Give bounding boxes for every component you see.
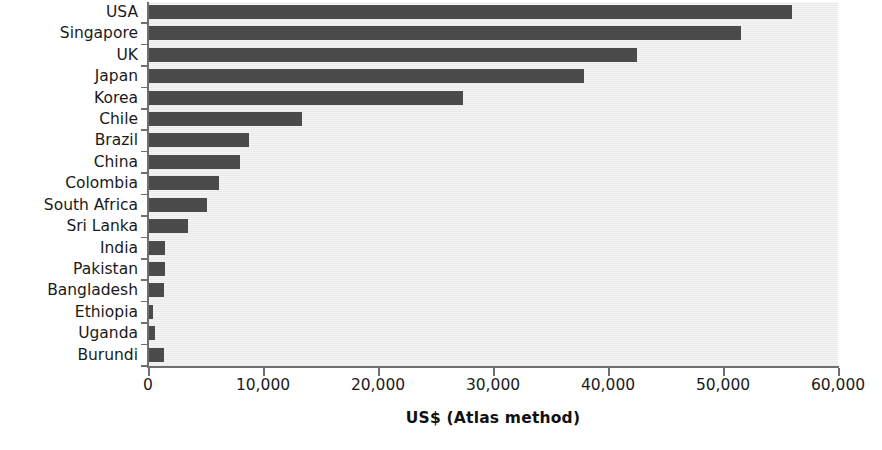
x-axis-labels: 010,00020,00030,00040,00050,00060,000 bbox=[148, 376, 838, 400]
x-axis-tick-label: 10,000 bbox=[236, 376, 290, 394]
bar bbox=[148, 176, 219, 190]
y-axis-ticks bbox=[141, 2, 148, 366]
x-axis-title: US$ (Atlas method) bbox=[148, 409, 838, 427]
bar bbox=[148, 155, 240, 169]
y-axis-tick bbox=[141, 301, 148, 303]
y-axis-tick-label: Bangladesh bbox=[0, 280, 138, 301]
y-axis-tick-label: Pakistan bbox=[0, 259, 138, 280]
y-axis-tick-label: Burundi bbox=[0, 345, 138, 366]
bar bbox=[148, 69, 584, 83]
y-axis-tick-label: Ethiopia bbox=[0, 302, 138, 323]
y-axis-tick-label: USA bbox=[0, 2, 138, 23]
x-axis-tick bbox=[148, 368, 150, 376]
bars-layer bbox=[148, 2, 838, 366]
bar-row bbox=[148, 345, 838, 366]
y-axis-tick-label: UK bbox=[0, 45, 138, 66]
x-axis-tick-label: 30,000 bbox=[466, 376, 520, 394]
y-axis-tick-label: Uganda bbox=[0, 323, 138, 344]
bar-row bbox=[148, 195, 838, 216]
bar-row bbox=[148, 323, 838, 344]
bar bbox=[148, 26, 741, 40]
bar bbox=[148, 283, 164, 297]
y-axis-tick bbox=[141, 322, 148, 324]
y-axis-tick bbox=[141, 108, 148, 110]
x-axis-tick-label: 50,000 bbox=[696, 376, 750, 394]
x-axis-tick-label: 40,000 bbox=[581, 376, 635, 394]
bar bbox=[148, 348, 164, 362]
y-axis-tick-label: Japan bbox=[0, 66, 138, 87]
x-axis-ticks bbox=[148, 368, 838, 376]
bar-row bbox=[148, 2, 838, 23]
y-axis-tick-label: Singapore bbox=[0, 23, 138, 44]
bar bbox=[148, 198, 207, 212]
bar bbox=[148, 48, 637, 62]
y-axis-tick bbox=[141, 344, 148, 346]
y-axis-tick-label: China bbox=[0, 152, 138, 173]
y-axis-tick bbox=[141, 237, 148, 239]
bar bbox=[148, 5, 792, 19]
bar bbox=[148, 326, 155, 340]
x-axis-tick bbox=[378, 368, 380, 376]
y-axis-tick bbox=[141, 279, 148, 281]
x-axis-tick-label: 60,000 bbox=[811, 376, 865, 394]
bar bbox=[148, 219, 188, 233]
x-axis-tick-label: 20,000 bbox=[351, 376, 405, 394]
bar bbox=[148, 133, 249, 147]
y-axis-labels: USASingaporeUKJapanKoreaChileBrazilChina… bbox=[0, 2, 138, 366]
bar-row bbox=[148, 152, 838, 173]
x-axis-tick bbox=[723, 368, 725, 376]
bar-row bbox=[148, 66, 838, 87]
bar-row bbox=[148, 302, 838, 323]
x-axis-tick bbox=[493, 368, 495, 376]
bar-row bbox=[148, 109, 838, 130]
y-axis-tick bbox=[141, 129, 148, 131]
y-axis-tick bbox=[141, 172, 148, 174]
bar-row bbox=[148, 259, 838, 280]
bar-row bbox=[148, 130, 838, 151]
bar-row bbox=[148, 216, 838, 237]
bar bbox=[148, 241, 165, 255]
x-axis-tick-label: 0 bbox=[143, 376, 153, 394]
y-axis-tick-label: Sri Lanka bbox=[0, 216, 138, 237]
y-axis-tick bbox=[141, 258, 148, 260]
bar-row bbox=[148, 45, 838, 66]
y-axis-tick-label: Chile bbox=[0, 109, 138, 130]
bar-row bbox=[148, 238, 838, 259]
bar-chart: USASingaporeUKJapanKoreaChileBrazilChina… bbox=[0, 0, 882, 450]
bar bbox=[148, 91, 463, 105]
y-axis-tick bbox=[141, 215, 148, 217]
x-axis-tick bbox=[263, 368, 265, 376]
y-axis-tick bbox=[141, 194, 148, 196]
y-axis-tick-label: India bbox=[0, 238, 138, 259]
bar-row bbox=[148, 173, 838, 194]
y-axis-tick bbox=[141, 87, 148, 89]
y-axis-tick-label: Colombia bbox=[0, 173, 138, 194]
bar-row bbox=[148, 280, 838, 301]
y-axis-tick bbox=[141, 151, 148, 153]
bar bbox=[148, 112, 302, 126]
y-axis-tick bbox=[141, 22, 148, 24]
x-axis-tick bbox=[838, 368, 840, 376]
bar bbox=[148, 262, 165, 276]
y-axis-tick-label: South Africa bbox=[0, 195, 138, 216]
bar-row bbox=[148, 23, 838, 44]
y-axis-tick bbox=[141, 44, 148, 46]
y-axis-tick-label: Brazil bbox=[0, 130, 138, 151]
y-axis-tick-label: Korea bbox=[0, 88, 138, 109]
bar-row bbox=[148, 88, 838, 109]
y-axis-tick bbox=[141, 65, 148, 67]
x-axis-tick bbox=[608, 368, 610, 376]
